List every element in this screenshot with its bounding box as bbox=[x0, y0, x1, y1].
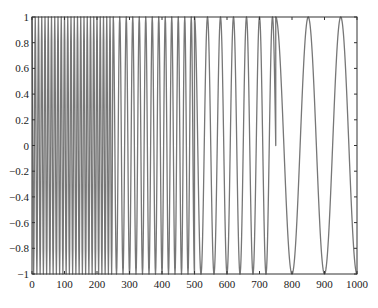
x-tick-label: 1000 bbox=[346, 278, 369, 290]
x-tick-label: 0 bbox=[29, 278, 35, 290]
x-tick-label: 100 bbox=[56, 278, 73, 290]
y-tick-label: −1 bbox=[17, 268, 29, 280]
series-layer bbox=[32, 17, 357, 274]
y-tick-label: 0 bbox=[24, 140, 30, 152]
y-tick-label: −0.2 bbox=[9, 165, 29, 177]
x-tick-label: 400 bbox=[154, 278, 171, 290]
y-tick-label: −0.6 bbox=[9, 217, 29, 229]
x-tick-label: 600 bbox=[219, 278, 236, 290]
x-tick-label: 800 bbox=[284, 278, 301, 290]
x-tick-label: 900 bbox=[316, 278, 333, 290]
y-tick-label: 0.8 bbox=[15, 37, 29, 49]
series-line bbox=[32, 17, 357, 274]
y-axis-tick-labels: −1−0.8−0.6−0.4−0.200.20.40.60.81 bbox=[9, 11, 29, 280]
y-tick-label: 1 bbox=[24, 11, 30, 23]
plot-area bbox=[32, 17, 357, 274]
x-tick-label: 500 bbox=[186, 278, 203, 290]
y-tick-label: 0.6 bbox=[15, 62, 29, 74]
y-tick-label: 0.2 bbox=[15, 114, 29, 126]
y-tick-label: 0.4 bbox=[15, 88, 29, 100]
y-tick-label: −0.8 bbox=[9, 242, 29, 254]
y-tick-label: −0.4 bbox=[9, 191, 29, 203]
x-tick-label: 700 bbox=[251, 278, 268, 290]
x-tick-label: 200 bbox=[89, 278, 106, 290]
x-axis-tick-labels: 01002003004005006007008009001000 bbox=[29, 278, 368, 290]
x-tick-label: 300 bbox=[121, 278, 138, 290]
line-chart: 01002003004005006007008009001000 −1−0.8−… bbox=[0, 0, 378, 308]
